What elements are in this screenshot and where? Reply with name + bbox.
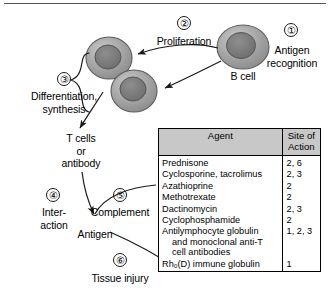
table-header-row: Agent Site of Action [159,129,321,156]
cell-site-of-action: 2 [282,214,320,225]
table-row: Dactinomycin2, 3 [159,203,321,214]
antigen-label: Antigen [64,228,126,241]
step-3-number: ③ [57,72,71,86]
step-4-number: ④ [46,188,60,202]
agents-table-body: Prednisone2, 6Cyclosporine, tacrolimus2,… [159,156,321,272]
cell-site-of-action: 1, 2, 3 [282,226,320,259]
table-row: Prednisone2, 6 [159,156,321,169]
t-cells-antibody-label: T cells or antibody [36,132,126,170]
table-row: Antilymphocyte globulinand monoclonal an… [159,226,321,259]
table-row: Rh₀(D) immune globulin1 [159,258,321,271]
step-1-label: Antigen recognition [258,44,326,69]
step-1-number: ① [284,23,298,37]
cell-agent-name: Rh₀(D) immune globulin [159,258,283,271]
cell-site-of-action: 2, 6 [282,156,320,169]
step-3-label: Differentiation, synthesis [0,90,128,115]
cell-agent-name: Antilymphocyte globulinand monoclonal an… [159,226,283,259]
agents-table-head: Agent Site of Action [159,129,321,156]
cell-site-of-action: 2, 3 [282,169,320,180]
cell-site-of-action: 2 [282,180,320,191]
cell-agent-name: Cyclosporine, tacrolimus [159,169,283,180]
step-6-label: Tissue injury [68,272,172,285]
step-5-number: ⑤ [113,188,127,202]
column-header-site-of-action: Site of Action [282,129,320,156]
immune-response-figure: ① Antigen recognition B cell ② Prolifera… [0,0,330,305]
top-divider-rule [4,3,326,4]
step-6-number: ⑥ [113,253,127,267]
cell-agent-name: Methotrexate [159,192,283,203]
table-row: Cyclophosphamide2 [159,214,321,225]
cell-agent-name: Cyclophosphamide [159,214,283,225]
cell-agent-name: Prednisone [159,156,283,169]
step-2-number: ② [177,16,191,30]
proliferated-cell-upper-shape [86,37,132,79]
table-row: Azathioprine2 [159,180,321,191]
step-2-label: Proliferation [141,35,227,48]
table-row: Cyclosporine, tacrolimus2, 3 [159,169,321,180]
cell-site-of-action: 1 [282,258,320,271]
cell-site-of-action: 2 [282,192,320,203]
agents-table: Agent Site of Action Prednisone2, 6Cyclo… [158,128,321,272]
b-cell-label: B cell [213,70,273,83]
cell-agent-continuation: cell antibodies [162,247,279,258]
column-header-agent: Agent [159,129,283,156]
cell-site-of-action: 2, 3 [282,203,320,214]
cell-agent-continuation: and monoclonal anti-T [162,237,279,248]
step-5-label: Complement [80,206,160,219]
cell-agent-name: Dactinomycin [159,203,283,214]
table-row: Methotrexate2 [159,192,321,203]
cell-agent-name: Azathioprine [159,180,283,191]
